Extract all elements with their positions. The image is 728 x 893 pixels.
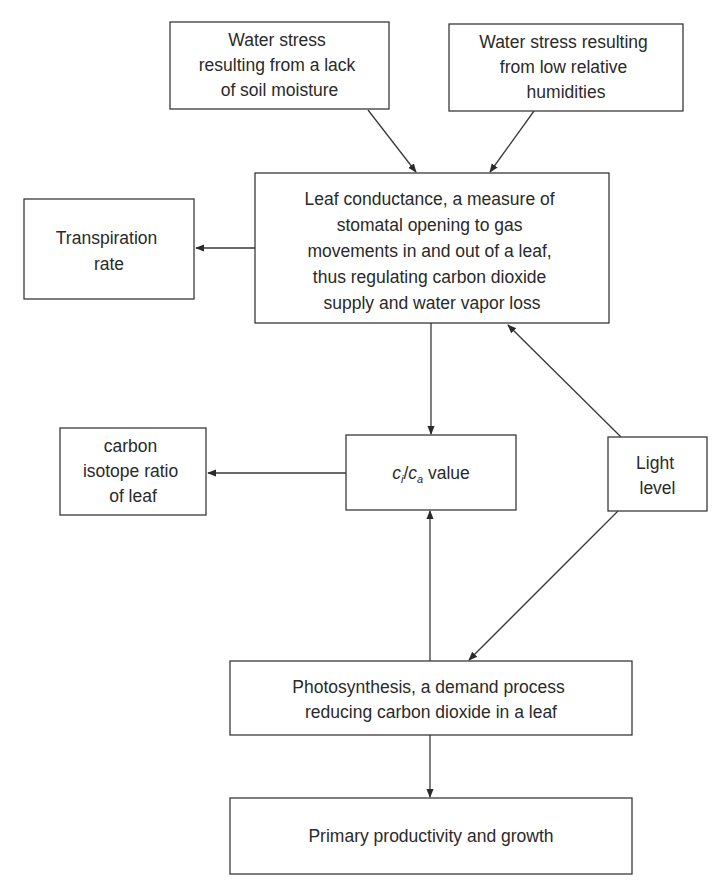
node-label-line: Light <box>636 453 674 473</box>
node-transpiration-rate: Transpiration rate <box>24 199 194 299</box>
node-label-line: of leaf <box>109 486 157 506</box>
node-label-line: Water stress resulting <box>479 32 648 52</box>
flow-diagram: Water stress resulting from a lack of so… <box>0 0 728 893</box>
node-label-line: stomatal opening to gas <box>337 215 523 235</box>
node-humidity-water-stress: Water stress resulting from low relative… <box>449 24 683 111</box>
value-word: value <box>423 463 470 483</box>
svg-text:ci/ca value: ci/ca value <box>392 463 470 485</box>
node-photosynthesis: Photosynthesis, a demand process reducin… <box>230 661 632 735</box>
node-label-line: Water stress <box>228 30 326 50</box>
svg-text:Primary productivity and growt: Primary productivity and growth <box>308 826 553 846</box>
node-label-line: of soil moisture <box>221 80 339 100</box>
svg-text:Leaf conductance, a measure of: Leaf conductance, a measure of stomatal … <box>305 189 560 313</box>
node-primary-productivity: Primary productivity and growth <box>230 798 632 874</box>
node-label-line: level <box>640 478 676 498</box>
node-label-line: Photosynthesis, a demand process <box>292 677 565 697</box>
node-soil-moisture-water-stress: Water stress resulting from a lack of so… <box>170 22 389 109</box>
arrow-light-to-conductance <box>508 325 621 437</box>
node-label-line: isotope ratio <box>83 461 178 481</box>
node-label-line: resulting from a lack <box>199 55 356 75</box>
node-label-line: humidities <box>527 82 606 102</box>
node-leaf-conductance: Leaf conductance, a measure of stomatal … <box>255 173 609 323</box>
node-label-line: Transpiration <box>56 228 157 248</box>
ca-symbol: c <box>408 463 417 483</box>
node-label-line: movements in and out of a leaf, <box>307 241 551 261</box>
node-label-line: rate <box>94 254 124 274</box>
node-carbon-isotope-ratio: carbon isotope ratio of leaf <box>60 428 206 515</box>
node-label-line: reducing carbon dioxide in a leaf <box>305 702 557 722</box>
node-light-level: Light level <box>608 437 707 511</box>
node-label-line: from low relative <box>500 57 627 77</box>
node-label-line: thus regulating carbon dioxide <box>313 267 547 287</box>
arrow-soil-to-conductance <box>368 110 416 172</box>
node-label-line: carbon <box>104 436 158 456</box>
arrow-light-to-photosynthesis <box>469 511 618 660</box>
arrow-humidity-to-conductance <box>490 111 534 172</box>
ci-symbol: c <box>392 463 401 483</box>
node-label-line: Primary productivity and growth <box>308 826 553 846</box>
node-ci-ca-value: ci/ca value <box>346 435 516 510</box>
node-label-line: Leaf conductance, a measure of <box>305 189 555 209</box>
node-label-line: supply and water vapor loss <box>324 293 541 313</box>
